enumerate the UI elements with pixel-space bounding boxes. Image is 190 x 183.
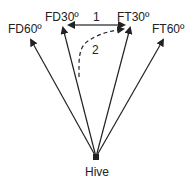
line-ft60 [96,40,163,157]
path-2-label: 2 [92,44,99,56]
label-fd60: FD60º [8,23,42,35]
hive-label: Hive [85,166,109,178]
label-ft60: FT60º [152,23,184,35]
line-ft30 [96,28,130,157]
label-ft30: FT30º [117,11,149,23]
hive-icon [93,154,99,160]
label-fd30: FD30º [45,11,79,23]
path-2-arrow [79,29,123,77]
line-fd60 [31,40,96,157]
path-1-label: 1 [93,11,100,23]
